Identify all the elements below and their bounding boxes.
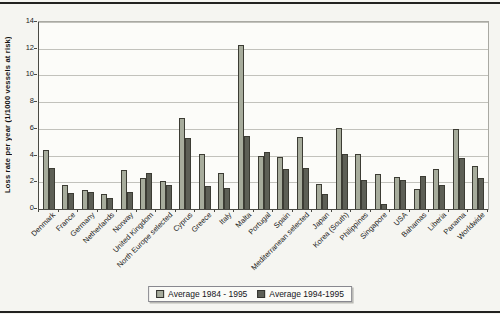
x-tick-mark [370, 209, 371, 212]
x-category-label-greece: Greece [191, 211, 214, 234]
bar-avg-1994-1995-cyprus [185, 138, 191, 209]
x-tick-mark [428, 209, 429, 212]
x-tick-mark [175, 209, 176, 212]
x-tick-mark [116, 209, 117, 212]
bar-avg-1994-1995-philippines [361, 180, 367, 209]
bar-avg-1994-1995-netherlands [107, 198, 113, 209]
loss-rate-bar-chart-plot-area [38, 21, 489, 210]
x-tick-mark [350, 209, 351, 212]
y-tick-label-8: 8 [8, 97, 34, 105]
legend-item-avg-1994-1995: Average 1994-1995 [257, 289, 344, 299]
x-tick-mark [58, 209, 59, 212]
bar-avg-1994-1995-germany [88, 192, 94, 209]
legend-item-avg-1984-1995: Average 1984 - 1995 [156, 289, 247, 299]
bar-avg-1994-1995-usa [400, 180, 406, 209]
y-tick-mark [34, 48, 37, 49]
y-tick-mark [34, 21, 37, 22]
gridline-y-6 [39, 129, 488, 130]
bar-avg-1994-1995-malta [244, 136, 250, 209]
x-tick-mark [448, 209, 449, 212]
x-tick-mark [311, 209, 312, 212]
bar-avg-1994-1995-france [68, 193, 74, 209]
x-category-label-denmark: Denmark [30, 211, 57, 238]
legend-label-avg-1984-1995: Average 1984 - 1995 [168, 289, 247, 299]
bar-avg-1994-1995-bahamas [420, 176, 426, 209]
y-tick-label-12: 12 [8, 44, 34, 52]
y-tick-mark [34, 128, 37, 129]
x-tick-mark [233, 209, 234, 212]
bar-avg-1994-1995-denmark [49, 168, 55, 209]
bar-avg-1994-1995-liberia [439, 185, 445, 209]
legend-swatch-avg-1994-1995 [257, 290, 265, 298]
gridline-y-8 [39, 102, 488, 103]
y-tick-mark [34, 74, 37, 75]
bar-avg-1994-1995-norway [127, 192, 133, 209]
legend: Average 1984 - 1995 Average 1994-1995 [148, 286, 352, 302]
y-tick-label-2: 2 [8, 177, 34, 185]
x-tick-mark [331, 209, 332, 212]
bar-avg-1994-1995-korea-south- [342, 154, 348, 209]
y-axis-line [38, 22, 39, 209]
y-tick-mark [34, 155, 37, 156]
gridline-y-12 [39, 49, 488, 50]
bar-avg-1994-1995-greece [205, 186, 211, 209]
y-tick-mark [34, 181, 37, 182]
y-tick-label-0: 0 [8, 204, 34, 212]
x-tick-mark [136, 209, 137, 212]
x-tick-mark [194, 209, 195, 212]
legend-label-avg-1994-1995: Average 1994-1995 [269, 289, 344, 299]
x-tick-mark [214, 209, 215, 212]
bar-avg-1994-1995-north-europe-selected [166, 185, 172, 209]
x-tick-mark [77, 209, 78, 212]
y-tick-mark [34, 101, 37, 102]
x-tick-mark [253, 209, 254, 212]
bar-avg-1994-1995-spain [283, 169, 289, 209]
x-tick-mark [487, 209, 488, 212]
x-tick-mark [292, 209, 293, 212]
x-tick-mark [272, 209, 273, 212]
y-tick-label-4: 4 [8, 151, 34, 159]
bar-avg-1994-1995-italy [224, 188, 230, 209]
bar-avg-1994-1995-united-kingdom [146, 173, 152, 209]
bar-avg-1994-1995-japan [322, 194, 328, 209]
gridline-y-10 [39, 75, 488, 76]
x-tick-mark [409, 209, 410, 212]
legend-swatch-avg-1984-1995 [156, 290, 164, 298]
y-tick-mark [34, 208, 37, 209]
y-tick-label-14: 14 [8, 17, 34, 25]
x-category-label-italy: Italy [218, 211, 233, 226]
y-tick-label-10: 10 [8, 70, 34, 78]
gridline-y-14 [39, 22, 488, 23]
bar-avg-1994-1995-portugal [264, 152, 270, 209]
bar-avg-1994-1995-mediterranean-selected [303, 168, 309, 209]
scan-bottom-rule [0, 311, 500, 313]
x-tick-mark [38, 209, 39, 212]
scan-top-rule [0, 2, 500, 4]
x-category-label-cyprus: Cyprus [172, 211, 194, 233]
x-tick-mark [389, 209, 390, 212]
x-tick-mark [97, 209, 98, 212]
x-tick-mark [467, 209, 468, 212]
bar-avg-1994-1995-panama [459, 158, 465, 209]
x-tick-mark [155, 209, 156, 212]
y-tick-label-6: 6 [8, 124, 34, 132]
bar-avg-1994-1995-worldwide [478, 178, 484, 209]
bar-avg-1994-1995-singapore [381, 204, 387, 209]
